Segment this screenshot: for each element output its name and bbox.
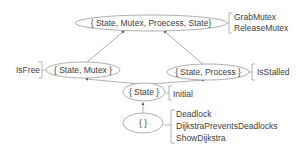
bracket-state: [166, 86, 172, 100]
node-state-process: { State, Process }: [167, 64, 249, 80]
annotation-initial: Initial: [173, 89, 193, 99]
annotation-releasemutex: ReleaseMutex: [234, 23, 289, 33]
bracket-empty: [164, 110, 175, 143]
node-top: { State, Mutex, Proecess, State}: [75, 15, 227, 31]
edge-state-mutex-to-top: [86, 31, 124, 63]
node-top-label: { State, Mutex, Proecess, State}: [91, 18, 212, 28]
edge-state-to-state-mutex: [86, 79, 140, 84]
node-state: { State }: [123, 83, 165, 101]
annotation-grabmutex: GrabMutex: [234, 12, 277, 22]
annotation-showdijkstra: ShowDijkstra: [176, 133, 226, 143]
annotation-isstalled: IsStalled: [257, 67, 290, 77]
bracket-state-process: [249, 64, 255, 80]
node-state-mutex-label: { State, Mutex }: [54, 65, 112, 75]
edge-state-to-state-process: [150, 80, 204, 84]
annotation-isfree: IsFree: [16, 65, 40, 75]
annotation-dijkstrapreventsdeadlocks: DijkstraPreventsDeadlocks: [176, 121, 278, 131]
lattice-diagram: { State, Mutex, Proecess, State} GrabMut…: [0, 0, 300, 151]
annotation-deadlock: Deadlock: [176, 109, 212, 119]
node-empty: { }: [123, 113, 163, 133]
node-state-label: { State }: [129, 87, 159, 97]
bracket-top: [227, 13, 232, 33]
node-state-process-label: { State, Process }: [175, 67, 241, 77]
node-state-mutex: { State, Mutex }: [46, 62, 120, 78]
edge-state-process-to-top: [164, 31, 204, 65]
node-empty-label: { }: [139, 118, 147, 128]
